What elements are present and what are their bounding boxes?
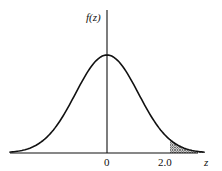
x-axis-label: z	[204, 157, 208, 168]
y-axis-label: f(z)	[86, 12, 101, 23]
tick-label-zero: 0	[104, 157, 110, 168]
normal-curve-figure	[0, 0, 222, 171]
tick-label-two: 2.0	[158, 157, 172, 168]
